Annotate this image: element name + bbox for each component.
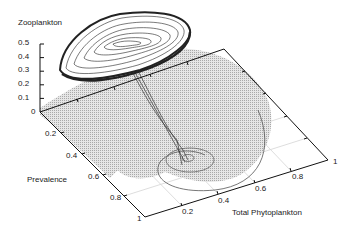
x-tick-0.6: 0.6: [255, 185, 266, 193]
y-tick-0.6: 0.6: [88, 173, 99, 181]
x-tick-1: 1: [333, 158, 337, 166]
y-tick-0.4: 0.4: [66, 152, 77, 160]
surface-plot: [0, 0, 352, 236]
y-tick-0.8: 0.8: [110, 194, 121, 202]
z-tick-0.2: 0.2: [18, 80, 29, 88]
z-tick-0.3: 0.3: [18, 66, 29, 74]
z-tick-0: 0: [31, 108, 35, 116]
z-tick-0.5: 0.5: [18, 39, 29, 47]
x-tick-0.4: 0.4: [218, 197, 229, 205]
x-tick-0.2: 0.2: [182, 208, 193, 216]
y-axis-label: Prevalence: [27, 176, 67, 184]
z-axis-label: Zooplankton: [18, 19, 62, 27]
y-tick-1: 1: [137, 215, 141, 223]
y-tick-0.2: 0.2: [45, 130, 56, 138]
z-tick-0.4: 0.4: [18, 53, 29, 61]
x-tick-0.8: 0.8: [292, 173, 303, 181]
z-tick-0.1: 0.1: [18, 94, 29, 102]
x-axis-label: Total Phytoplankton: [232, 209, 302, 217]
